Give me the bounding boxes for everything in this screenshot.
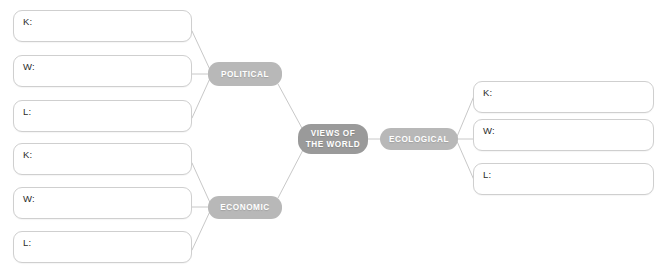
node-political[interactable]: POLITICAL [208,62,282,86]
connector-ecological-l [456,139,474,180]
node-ecological-label: ECOLOGICAL [389,134,449,145]
economic-box-w[interactable]: W: [13,187,192,219]
ecological-box-l[interactable]: L: [473,163,654,195]
economic-box-l[interactable]: L: [13,231,192,263]
node-center-line1: VIEWS OF [311,128,355,139]
ecological-box-l-label: L: [483,168,491,181]
political-box-w-label: W: [23,60,35,73]
node-political-label: POLITICAL [221,69,269,80]
node-economic-label: ECONOMIC [220,202,269,213]
node-center-views-of-the-world[interactable]: VIEWS OF THE WORLD [298,124,368,154]
mind-map-canvas: K: W: L: K: W: L: K: W: L: POLITICAL ECO… [0,0,668,270]
node-economic[interactable]: ECONOMIC [208,196,282,219]
connector-political-center [278,84,303,130]
ecological-box-w-label: W: [483,124,495,137]
economic-box-w-label: W: [23,192,35,205]
political-box-k[interactable]: K: [13,10,192,42]
ecological-box-k[interactable]: K: [473,81,654,113]
ecological-box-k-label: K: [483,86,492,99]
political-box-l-label: L: [23,105,31,118]
political-box-l[interactable]: L: [13,100,192,132]
political-box-w[interactable]: W: [13,55,192,87]
node-ecological[interactable]: ECOLOGICAL [380,128,458,150]
connector-economic-center [278,150,303,198]
economic-box-k[interactable]: K: [13,143,192,175]
connector-ecological-k [456,96,474,139]
node-center-line2: THE WORLD [306,139,361,150]
political-box-k-label: K: [23,15,32,28]
economic-box-l-label: L: [23,236,31,249]
economic-box-k-label: K: [23,148,32,161]
ecological-box-w[interactable]: W: [473,119,654,151]
